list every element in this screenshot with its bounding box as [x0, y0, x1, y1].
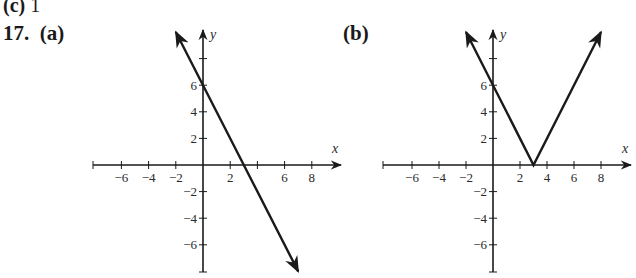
y-tick-label: −6: [473, 237, 487, 252]
x-axis-label: x: [331, 141, 339, 156]
x-tick-label: 6: [571, 170, 578, 185]
y-tick-label: −4: [183, 211, 197, 226]
x-axis-label: x: [621, 141, 629, 156]
y-axis-label: y: [208, 27, 217, 42]
x-tick-label: 2: [227, 170, 234, 185]
x-tick-label: −2: [169, 170, 183, 185]
y-tick-label: −2: [183, 184, 197, 199]
x-tick-label: −4: [432, 170, 446, 185]
y-tick-label: −2: [473, 184, 487, 199]
x-tick-label: 8: [598, 170, 605, 185]
y-tick-label: 4: [191, 104, 198, 119]
graph-b: xy−6−4−22468642−2−4−6: [383, 27, 631, 272]
graphs: xy−6−4−2268642−2−4−6 xy−6−4−22468642−2−4…: [0, 0, 636, 278]
y-tick-label: −4: [473, 211, 487, 226]
y-tick-label: −6: [183, 237, 197, 252]
x-tick-label: 8: [309, 170, 316, 185]
y-tick-label: 2: [481, 131, 488, 146]
x-tick-label: 4: [544, 170, 551, 185]
y-tick-label: 2: [191, 131, 198, 146]
y-axis-label: y: [498, 27, 507, 42]
function-line: [176, 32, 298, 271]
x-tick-label: −6: [114, 170, 128, 185]
graph-a: xy−6−4−2268642−2−4−6: [93, 27, 341, 272]
x-tick-label: −2: [459, 170, 473, 185]
y-tick-label: 4: [481, 104, 488, 119]
y-tick-label: 6: [191, 78, 198, 93]
x-tick-label: 6: [281, 170, 288, 185]
x-tick-label: −4: [142, 170, 156, 185]
x-tick-label: −6: [405, 170, 419, 185]
y-tick-label: 6: [481, 78, 488, 93]
x-tick-label: 2: [517, 170, 524, 185]
